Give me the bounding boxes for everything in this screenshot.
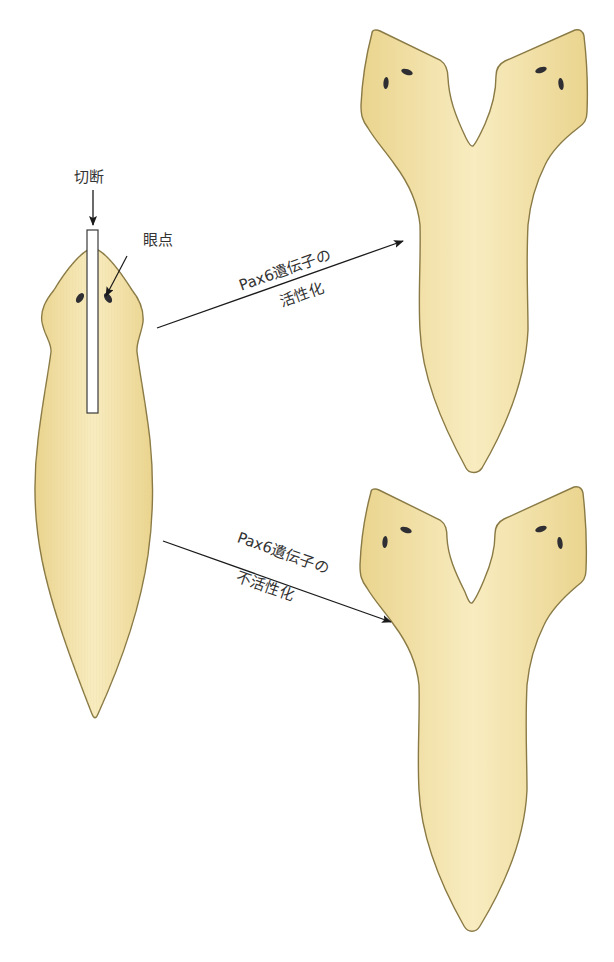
activation-arrow xyxy=(157,241,403,328)
planarian-activated-body xyxy=(361,30,587,473)
diagram-canvas xyxy=(0,0,614,962)
planarian-original xyxy=(35,230,153,718)
planarian-activated xyxy=(361,30,587,473)
eyespot-label: 眼点 xyxy=(143,233,173,248)
planarian-inactivated-body xyxy=(360,487,586,932)
planarian-inactivated xyxy=(360,487,586,932)
cut-label: 切断 xyxy=(74,170,104,185)
cut-line-bar xyxy=(87,230,98,413)
